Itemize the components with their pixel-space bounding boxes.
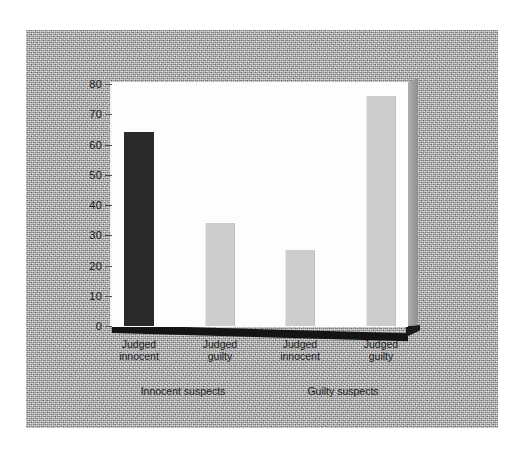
y-axis-tick xyxy=(105,326,112,327)
category-label-line2: innocent xyxy=(96,350,182,362)
figure-canvas: 80706050403020100 JudgedinnocentJudgedgu… xyxy=(0,0,519,452)
y-axis-tick xyxy=(105,205,112,206)
group-label-2: Guilty suspects xyxy=(268,385,418,397)
bar-4 xyxy=(366,96,396,326)
category-label-line2: innocent xyxy=(257,350,343,362)
category-label-4: Judgedguilty xyxy=(338,338,424,362)
y-axis-tick-label: 60 xyxy=(76,140,102,151)
category-label-2: Judgedguilty xyxy=(177,338,263,362)
bar-1 xyxy=(124,132,154,326)
bar-2 xyxy=(205,223,235,326)
y-axis-tick-label: 10 xyxy=(76,291,102,302)
category-label-3: Judgedinnocent xyxy=(257,338,343,362)
y-axis-tick-label: 30 xyxy=(76,230,102,241)
y-axis-tick xyxy=(105,175,112,176)
category-label-line1: Judged xyxy=(177,338,263,350)
y-axis-tick xyxy=(105,266,112,267)
y-axis-tick xyxy=(105,114,112,115)
y-axis-tick xyxy=(105,84,112,85)
group-label-1: Innocent suspects xyxy=(108,385,258,397)
category-label-line1: Judged xyxy=(257,338,343,350)
y-axis-tick-labels: 80706050403020100 xyxy=(76,0,102,452)
y-axis-tick-label: 20 xyxy=(76,261,102,272)
category-label-line2: guilty xyxy=(338,350,424,362)
y-axis-tick-label: 80 xyxy=(76,79,102,90)
y-axis-tick-label: 0 xyxy=(76,321,102,332)
y-axis-tick xyxy=(105,296,112,297)
y-axis-tick-label: 40 xyxy=(76,200,102,211)
y-axis-tick xyxy=(105,145,112,146)
y-axis-tick-label: 50 xyxy=(76,170,102,181)
category-label-line1: Judged xyxy=(338,338,424,350)
bar-series xyxy=(112,82,408,327)
category-label-line1: Judged xyxy=(96,338,182,350)
chart-3d-right-face xyxy=(408,78,418,327)
bar-3 xyxy=(285,250,315,326)
y-axis-tick-label: 70 xyxy=(76,109,102,120)
category-label-line2: guilty xyxy=(177,350,263,362)
category-label-1: Judgedinnocent xyxy=(96,338,182,362)
y-axis-tick xyxy=(105,235,112,236)
